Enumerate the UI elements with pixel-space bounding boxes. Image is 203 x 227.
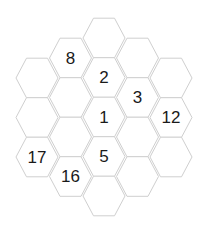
- hex-cell-shape[interactable]: [16, 98, 58, 138]
- hex-cell[interactable]: [150, 58, 192, 98]
- hex-cell-shape[interactable]: [83, 176, 125, 216]
- hex-cell[interactable]: 5: [83, 137, 125, 177]
- hex-cell[interactable]: [50, 117, 92, 157]
- hex-cell[interactable]: [50, 78, 92, 118]
- hex-cell[interactable]: [16, 58, 58, 98]
- hex-cell[interactable]: 2: [83, 58, 125, 98]
- hex-cell-shape[interactable]: [150, 58, 192, 98]
- hex-cell-shape[interactable]: [83, 58, 125, 98]
- hex-cell[interactable]: [117, 157, 159, 197]
- hex-cell-shape[interactable]: [117, 157, 159, 197]
- hex-cell-shape[interactable]: [50, 117, 92, 157]
- hex-cell-shape[interactable]: [83, 137, 125, 177]
- hex-cell-shape[interactable]: [83, 97, 125, 137]
- hex-cell-shape[interactable]: [50, 38, 92, 78]
- hex-cell[interactable]: 12: [150, 98, 192, 138]
- hex-puzzle-board: 17816215312: [0, 0, 203, 227]
- hex-cell-shape[interactable]: [117, 117, 159, 157]
- hex-cell[interactable]: [16, 98, 58, 138]
- hex-cell[interactable]: [117, 117, 159, 157]
- hex-cell-shape[interactable]: [16, 137, 58, 177]
- hex-cell[interactable]: 8: [50, 38, 92, 78]
- hex-cell[interactable]: [150, 137, 192, 177]
- hex-cell-shape[interactable]: [117, 78, 159, 118]
- hex-cell-shape[interactable]: [50, 157, 92, 197]
- hex-cell-shape[interactable]: [150, 137, 192, 177]
- hex-cell[interactable]: [117, 38, 159, 78]
- hex-cell[interactable]: 16: [50, 157, 92, 197]
- hex-cell[interactable]: 3: [117, 78, 159, 118]
- hex-cell-shape[interactable]: [16, 58, 58, 98]
- hex-cell[interactable]: [83, 18, 125, 58]
- hex-cell[interactable]: [83, 176, 125, 216]
- hex-cell-shape[interactable]: [50, 78, 92, 118]
- hex-grid: 17816215312: [0, 0, 203, 227]
- hex-cell[interactable]: 17: [16, 137, 58, 177]
- hex-cell-shape[interactable]: [117, 38, 159, 78]
- hex-cell-shape[interactable]: [83, 18, 125, 58]
- hex-cell[interactable]: 1: [83, 97, 125, 137]
- hex-cell-shape[interactable]: [150, 98, 192, 138]
